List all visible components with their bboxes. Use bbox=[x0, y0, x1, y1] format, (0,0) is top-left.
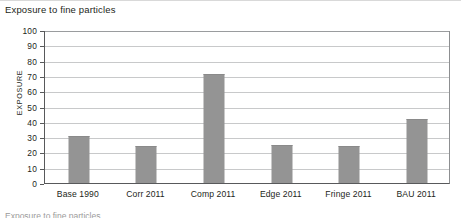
x-axis-label: Corr 2011 bbox=[112, 188, 180, 200]
bar-slot bbox=[45, 31, 113, 183]
x-axis-label: Fringe 2011 bbox=[315, 188, 383, 200]
y-tick-label-30: 30 bbox=[27, 134, 37, 142]
y-tick-label-70: 70 bbox=[27, 73, 37, 81]
y-tick-label-10: 10 bbox=[27, 165, 37, 173]
y-tick-label-40: 40 bbox=[27, 119, 37, 127]
y-tick-label-90: 90 bbox=[27, 42, 37, 50]
x-axis-labels: Base 1990Corr 2011Comp 2011Edge 2011Frin… bbox=[44, 188, 450, 204]
plot-area bbox=[44, 31, 450, 184]
x-axis-label: Edge 2011 bbox=[247, 188, 315, 200]
y-tick-label-50: 50 bbox=[27, 104, 37, 112]
y-tick-label-60: 60 bbox=[27, 88, 37, 96]
bar bbox=[204, 74, 225, 183]
bar-slot bbox=[316, 31, 384, 183]
bar-slot bbox=[113, 31, 181, 183]
bar-slot bbox=[383, 31, 451, 183]
x-axis-label: Base 1990 bbox=[44, 188, 112, 200]
y-axis-title: EXPOSURE bbox=[15, 48, 24, 138]
y-tick-label-0: 0 bbox=[32, 180, 37, 188]
clipped-caption-text: Exposure to fine particles bbox=[5, 211, 205, 218]
top-divider bbox=[0, 0, 461, 1]
bar bbox=[271, 145, 292, 183]
bar bbox=[407, 119, 428, 183]
bar-slot bbox=[248, 31, 316, 183]
bar bbox=[339, 146, 360, 183]
y-tick-label-20: 20 bbox=[27, 149, 37, 157]
x-axis-label: BAU 2011 bbox=[382, 188, 450, 200]
y-tick-mark-0 bbox=[40, 184, 44, 185]
x-axis-label: Comp 2011 bbox=[179, 188, 247, 200]
bar-series bbox=[45, 31, 449, 183]
y-tick-label-80: 80 bbox=[27, 58, 37, 66]
bar bbox=[136, 146, 157, 183]
bar-slot bbox=[180, 31, 248, 183]
clipped-caption: Exposure to fine particles bbox=[5, 211, 205, 218]
figure-container: Exposure to fine particles 1009080706050… bbox=[0, 0, 461, 218]
bar bbox=[68, 136, 89, 183]
y-tick-label-100: 100 bbox=[22, 27, 37, 35]
